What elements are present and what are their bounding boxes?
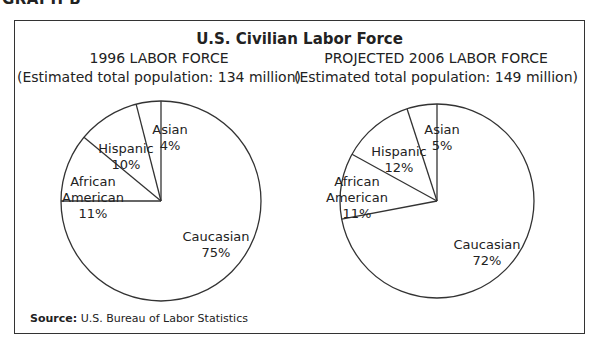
slice-label: African xyxy=(70,174,115,189)
right-pie-chart: Asian5%Hispanic12%AfricanAmerican11%Cauc… xyxy=(326,104,534,298)
slice-label: Caucasian xyxy=(183,229,250,244)
pie-charts: Asian4%Hispanic10%AfricanAmerican11%Cauc… xyxy=(0,0,599,348)
slice-label: Hispanic xyxy=(371,144,426,159)
slice-label: American xyxy=(62,190,124,205)
slice-label: Hispanic xyxy=(98,141,153,156)
slice-label: American xyxy=(326,190,388,205)
slice-label: Asian xyxy=(424,122,459,137)
slice-label: Asian xyxy=(152,122,187,137)
source-text: U.S. Bureau of Labor Statistics xyxy=(81,312,248,325)
slice-label: 11% xyxy=(343,206,372,221)
slice-label: 75% xyxy=(202,245,231,260)
slice-label: 11% xyxy=(79,206,108,221)
slice-label: African xyxy=(334,174,379,189)
slice-label: Caucasian xyxy=(454,237,521,252)
slice-label: 10% xyxy=(112,157,141,172)
source-note: Source: U.S. Bureau of Labor Statistics xyxy=(30,312,248,325)
source-label: Source: xyxy=(30,312,77,325)
slice-label: 12% xyxy=(385,160,414,175)
left-pie-chart: Asian4%Hispanic10%AfricanAmerican11%Cauc… xyxy=(61,101,261,301)
slice-label: 4% xyxy=(160,138,181,153)
slice-label: 5% xyxy=(432,138,453,153)
slice-label: 72% xyxy=(473,253,502,268)
